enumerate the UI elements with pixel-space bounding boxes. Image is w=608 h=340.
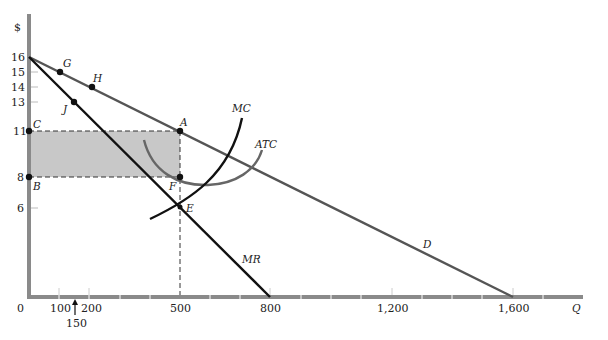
y-tick-13: 13 <box>11 96 25 109</box>
profit-area <box>29 131 180 177</box>
point-e <box>178 205 183 210</box>
x-tick-0: 0 <box>17 302 24 315</box>
x-tick-800: 800 <box>260 302 281 315</box>
y-tick-8: 8 <box>17 171 24 184</box>
y-tick-14: 14 <box>11 81 25 94</box>
label-b: B <box>32 180 41 192</box>
label-a: A <box>179 116 188 128</box>
label-j: J <box>61 103 68 115</box>
label-d: D <box>422 238 432 250</box>
label-f: F <box>168 180 177 192</box>
point-h <box>89 84 95 90</box>
y-tick-16: 16 <box>11 51 25 64</box>
point-f <box>177 174 183 180</box>
label-mc: MC <box>231 102 251 114</box>
point-g <box>57 69 63 75</box>
label-mr: MR <box>241 253 261 265</box>
x-ticks <box>59 288 513 295</box>
point-b <box>26 174 32 180</box>
point-j <box>71 99 77 105</box>
x-tick-1600: 1,600 <box>498 302 530 315</box>
y-tick-6: 6 <box>17 202 24 215</box>
monopoly-chart: $ 16 15 14 13 11 8 6 0 100 200 500 800 1… <box>0 0 608 340</box>
x-axis-label: Q <box>572 302 581 315</box>
label-atc: ATC <box>254 138 277 150</box>
x-tick-500: 500 <box>170 302 191 315</box>
arrow-up-icon <box>72 299 78 305</box>
y-tick-15: 15 <box>11 66 25 79</box>
x-annotation-150: 150 <box>66 317 87 330</box>
label-g: G <box>63 57 71 69</box>
label-e: E <box>185 202 194 214</box>
y-axis-label: $ <box>14 21 21 34</box>
y-tick-11: 11 <box>13 125 27 138</box>
x-tick-1200: 1,200 <box>377 302 409 315</box>
point-a <box>177 128 183 134</box>
label-h: H <box>92 72 103 84</box>
label-c: C <box>33 118 41 130</box>
x-tick-100: 100 <box>50 302 71 315</box>
x-tick-200: 200 <box>81 302 102 315</box>
